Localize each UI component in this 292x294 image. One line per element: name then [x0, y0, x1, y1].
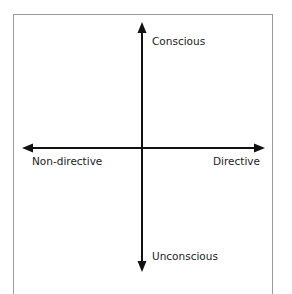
horizontal-axis — [22, 144, 265, 153]
label-unconscious: Unconscious — [152, 250, 218, 262]
arrow-down-icon — [138, 261, 147, 272]
arrow-left-icon — [22, 144, 33, 153]
label-non-directive: Non-directive — [32, 155, 102, 167]
label-directive: Directive — [213, 155, 260, 167]
arrow-up-icon — [138, 22, 147, 33]
arrow-right-icon — [254, 144, 265, 153]
label-conscious: Conscious — [152, 35, 205, 47]
